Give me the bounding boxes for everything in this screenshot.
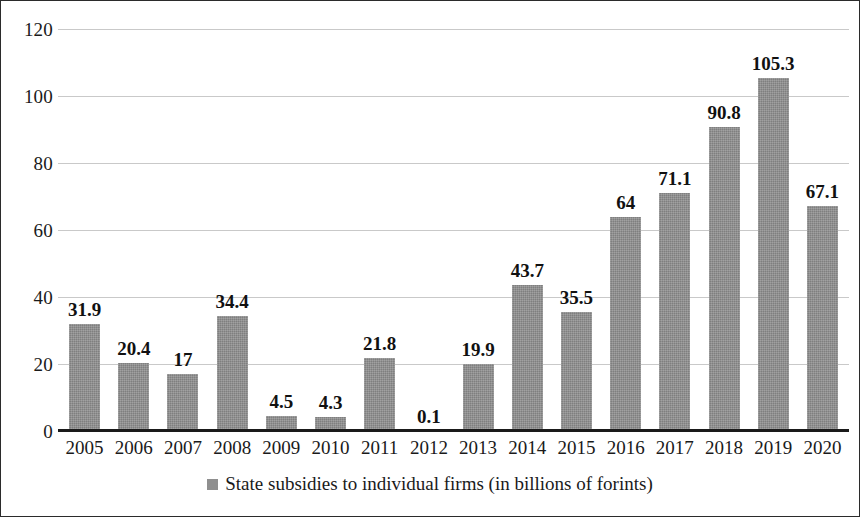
bar-slot: 17 — [158, 29, 207, 431]
bar-chart-figure: 020406080100120 31.920.41734.44.54.321.8… — [0, 0, 860, 517]
bar-value-label: 90.8 — [707, 103, 740, 122]
bar-value-label: 0.1 — [417, 407, 441, 426]
bar-slot: 34.4 — [208, 29, 257, 431]
bar-2008[interactable]: 34.4 — [217, 316, 248, 431]
bar-value-label: 35.5 — [560, 288, 593, 307]
x-axis-tick-2017: 2017 — [650, 437, 699, 465]
bar-slot: 35.5 — [552, 29, 601, 431]
bar-value-label: 31.9 — [68, 300, 101, 319]
bar-value-label: 4.5 — [269, 392, 293, 411]
bar-value-label: 67.1 — [806, 182, 839, 201]
y-axis-tick: 20 — [5, 355, 53, 374]
y-axis-tick: 60 — [5, 221, 53, 240]
bar-slot: 67.1 — [798, 29, 847, 431]
bar-slot: 31.9 — [60, 29, 109, 431]
bar-value-label: 20.4 — [117, 339, 150, 358]
chart-legend: State subsidies to individual firms (in … — [1, 474, 859, 493]
x-axis-tick-2005: 2005 — [60, 437, 109, 465]
bar-value-label: 19.9 — [461, 340, 494, 359]
x-axis-tick-2012: 2012 — [404, 437, 453, 465]
x-axis-tick-2013: 2013 — [454, 437, 503, 465]
bar-2014[interactable]: 43.7 — [512, 285, 543, 431]
x-axis-tick-2020: 2020 — [798, 437, 847, 465]
x-axis-tick-2016: 2016 — [601, 437, 650, 465]
bar-slot: 4.5 — [257, 29, 306, 431]
x-axis-tick-2008: 2008 — [208, 437, 257, 465]
bar-2015[interactable]: 35.5 — [561, 312, 592, 431]
plot-area: 31.920.41734.44.54.321.80.119.943.735.56… — [58, 29, 849, 431]
bar-slot: 90.8 — [699, 29, 748, 431]
bar-value-label: 105.3 — [752, 54, 795, 73]
x-axis-tick-2014: 2014 — [503, 437, 552, 465]
bar-2020[interactable]: 67.1 — [807, 206, 838, 431]
bar-slot: 43.7 — [503, 29, 552, 431]
bar-value-label: 34.4 — [216, 292, 249, 311]
bar-slot: 4.3 — [306, 29, 355, 431]
bar-2005[interactable]: 31.9 — [69, 324, 100, 431]
x-axis-tick-2019: 2019 — [749, 437, 798, 465]
bar-2011[interactable]: 21.8 — [364, 358, 395, 431]
bar-series: 31.920.41734.44.54.321.80.119.943.735.56… — [58, 29, 849, 431]
bar-slot: 0.1 — [404, 29, 453, 431]
y-axis-tick-labels: 020406080100120 — [1, 29, 53, 431]
x-axis-tick-2015: 2015 — [552, 437, 601, 465]
x-axis-baseline — [58, 429, 849, 432]
bar-2017[interactable]: 71.1 — [659, 193, 690, 431]
x-axis-tick-2011: 2011 — [355, 437, 404, 465]
legend-swatch-icon — [207, 479, 218, 490]
y-axis-tick: 40 — [5, 287, 53, 306]
bar-slot: 105.3 — [749, 29, 798, 431]
legend-entry-label: State subsidies to individual firms (in … — [225, 474, 652, 493]
bar-2016[interactable]: 64 — [610, 217, 641, 431]
bar-2006[interactable]: 20.4 — [118, 363, 149, 431]
bar-value-label: 64 — [616, 193, 635, 212]
x-axis-tick-2006: 2006 — [109, 437, 158, 465]
x-axis-tick-2010: 2010 — [306, 437, 355, 465]
bar-value-label: 71.1 — [658, 169, 691, 188]
bar-slot: 21.8 — [355, 29, 404, 431]
bar-2013[interactable]: 19.9 — [463, 364, 494, 431]
bar-slot: 64 — [601, 29, 650, 431]
x-axis-tick-2007: 2007 — [158, 437, 207, 465]
y-axis-tick: 80 — [5, 153, 53, 172]
bar-2019[interactable]: 105.3 — [758, 78, 789, 431]
y-axis-tick: 120 — [5, 20, 53, 39]
bar-value-label: 4.3 — [319, 393, 343, 412]
y-axis-tick: 100 — [5, 86, 53, 105]
bar-slot: 71.1 — [650, 29, 699, 431]
y-axis-tick: 0 — [5, 422, 53, 441]
x-axis-tick-labels: 2005200620072008200920102011201220132014… — [58, 437, 849, 465]
bar-value-label: 21.8 — [363, 334, 396, 353]
bar-2018[interactable]: 90.8 — [709, 127, 740, 431]
bar-slot: 19.9 — [454, 29, 503, 431]
x-axis-tick-2009: 2009 — [257, 437, 306, 465]
x-axis-tick-2018: 2018 — [699, 437, 748, 465]
bar-value-label: 43.7 — [511, 261, 544, 280]
bar-value-label: 17 — [173, 350, 192, 369]
bar-slot: 20.4 — [109, 29, 158, 431]
bar-2007[interactable]: 17 — [167, 374, 198, 431]
